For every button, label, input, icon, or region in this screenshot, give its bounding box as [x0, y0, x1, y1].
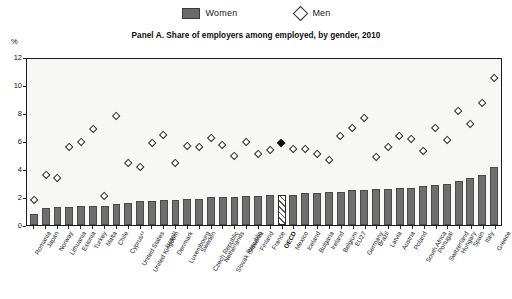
marker-men — [124, 158, 133, 167]
chart-column — [441, 59, 453, 225]
bar-women — [419, 186, 427, 225]
marker-men — [41, 171, 50, 180]
chart-column — [347, 59, 359, 225]
x-axis-label-slot: Turkey — [86, 230, 98, 299]
bar-women — [372, 189, 380, 225]
x-axis-label-slot: United States — [134, 230, 146, 299]
marker-men — [254, 150, 263, 159]
y-axis-tick-mark — [23, 58, 26, 59]
chart-title: Panel A. Share of employers among employ… — [0, 31, 512, 40]
chart-column — [40, 59, 52, 225]
bar-women — [42, 208, 50, 225]
x-axis-label-slot: Denmark — [169, 230, 181, 299]
marker-men — [301, 144, 310, 153]
marker-men — [478, 99, 487, 108]
marker-men — [466, 120, 475, 129]
y-axis-tick-label: 8 — [18, 109, 22, 118]
y-axis-tick-label: 0 — [18, 221, 22, 230]
chart-column — [181, 59, 193, 225]
marker-men — [65, 143, 74, 152]
legend-swatch-women-icon — [182, 8, 200, 19]
y-axis-tick-mark — [23, 170, 26, 171]
chart-column — [464, 59, 476, 225]
x-axis-label-slot: United Kingdom — [145, 230, 157, 299]
bar-women — [242, 196, 250, 225]
chart-column — [111, 59, 123, 225]
bar-women — [54, 207, 62, 225]
x-axis-label-slot: Czech Republic — [205, 230, 217, 299]
x-axis-label-slot: Estonia — [74, 230, 86, 299]
bar-women — [148, 201, 156, 225]
marker-men — [195, 143, 204, 152]
bar-women — [360, 190, 368, 225]
x-axis-label-slot: Belgium — [335, 230, 347, 299]
bar-women — [289, 195, 297, 225]
bar-women — [466, 178, 474, 225]
bar-women — [183, 199, 191, 225]
marker-men — [407, 135, 416, 144]
chart-column — [429, 59, 441, 225]
bar-women — [478, 175, 486, 225]
bar-women — [396, 188, 404, 225]
x-axis-label-slot: Poland — [406, 230, 418, 299]
marker-men — [336, 132, 345, 141]
chart-column — [288, 59, 300, 225]
chart-column — [323, 59, 335, 225]
marker-men — [88, 125, 97, 134]
x-axis-label-slot: France — [264, 230, 276, 299]
chart-column — [217, 59, 229, 225]
x-axis-label-slot: Malta — [98, 230, 110, 299]
marker-men — [112, 111, 121, 120]
chart-column — [488, 59, 500, 225]
x-axis-label-slot: Slovenia — [240, 230, 252, 299]
bar-women — [136, 201, 144, 225]
x-axis-label-slot: Portugal — [430, 230, 442, 299]
marker-men — [265, 146, 274, 155]
chart-legend: Women Men — [0, 5, 512, 21]
x-axis-label-slot: Ireland — [323, 230, 335, 299]
marker-men — [454, 107, 463, 116]
chart-column — [240, 59, 252, 225]
y-axis-tick-label: 4 — [18, 165, 22, 174]
bar-women — [124, 203, 132, 225]
marker-men — [218, 140, 227, 149]
marker-men — [442, 136, 451, 145]
y-axis-tick-label: 6 — [18, 137, 22, 146]
marker-men — [100, 191, 109, 200]
chart-column — [299, 59, 311, 225]
bar-women — [348, 190, 356, 225]
legend-item-women: Women — [182, 8, 238, 19]
marker-men — [242, 137, 251, 146]
x-axis-label-slot: Netherlands — [217, 230, 229, 299]
x-axis-label-slot: Latvia — [382, 230, 394, 299]
bar-women — [160, 200, 168, 225]
bar-women — [384, 189, 392, 225]
y-axis-tick-mark — [23, 114, 26, 115]
legend-label-men: Men — [312, 8, 330, 18]
x-axis-label-slot: Romania — [27, 230, 39, 299]
bar-women — [490, 167, 498, 225]
x-axis-label-slot: Sweden — [193, 230, 205, 299]
chart-column — [229, 59, 241, 225]
chart-column — [370, 59, 382, 225]
x-axis-label-slot: Brazil — [370, 230, 382, 299]
chart-column — [205, 59, 217, 225]
marker-men — [206, 133, 215, 142]
chart-column — [476, 59, 488, 225]
bar-women — [443, 184, 451, 226]
bar-women — [266, 195, 274, 225]
legend-item-men: Men — [295, 8, 330, 19]
marker-men — [171, 158, 180, 167]
chart-column — [75, 59, 87, 225]
bar-women — [207, 197, 215, 225]
marker-men — [77, 137, 86, 146]
x-axis-label-slot: Slovak Republic — [228, 230, 240, 299]
bar-women — [89, 206, 97, 225]
y-axis-unit-label: % — [11, 37, 18, 46]
y-axis-tick-label: 10 — [14, 81, 22, 90]
x-axis-label-slot: Cyprus¹² — [122, 230, 134, 299]
bar-women — [113, 204, 121, 225]
marker-men — [159, 131, 168, 140]
plot-area-wrapper: 024681012 — [26, 58, 502, 226]
chart-column — [122, 59, 134, 225]
